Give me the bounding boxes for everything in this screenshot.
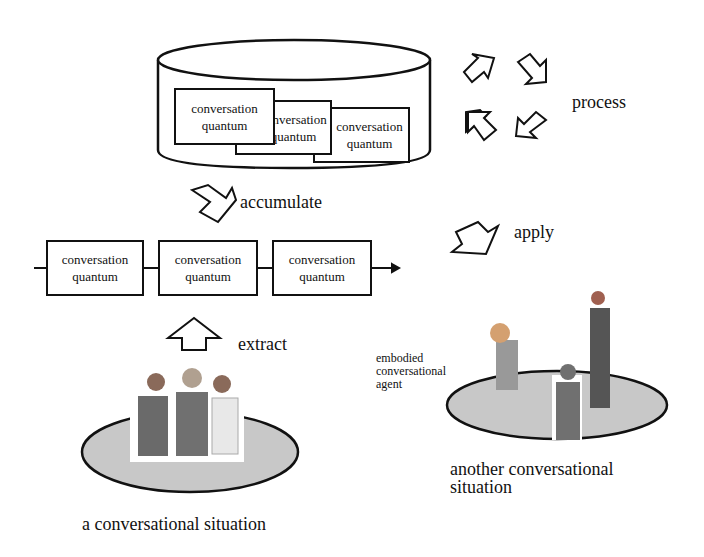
process-arrows (464, 54, 546, 140)
left-situation-caption: a conversational situation (82, 514, 266, 534)
quantum-text: quantum (176, 117, 273, 134)
apply-label: apply (514, 222, 554, 242)
sequence-quantum-1: conversation quantum (46, 240, 144, 296)
extract-arrow-icon (168, 318, 220, 350)
caption-line: another conversational (450, 460, 613, 478)
right-situation-caption: another conversational situation (450, 460, 613, 496)
agent-label: embodied conversational agent (376, 352, 446, 391)
accumulate-arrow-icon (192, 185, 236, 222)
quantum-text: conversation (48, 251, 142, 268)
quantum-text: conversation (274, 251, 370, 268)
agent-label-line: agent (376, 378, 446, 391)
apply-arrow-icon (452, 222, 498, 254)
quantum-text: conversation (160, 251, 256, 268)
quantum-text: quantum (48, 268, 142, 285)
extract-label: extract (238, 334, 287, 354)
quantum-text: quantum (160, 268, 256, 285)
quantum-text: quantum (331, 135, 408, 152)
quantum-text: conversation (176, 100, 273, 117)
caption-line: situation (450, 478, 613, 496)
accumulate-label: accumulate (240, 192, 322, 212)
db-quantum-1: conversation quantum (174, 88, 275, 145)
sequence-quantum-3: conversation quantum (272, 240, 372, 296)
sequence-quantum-2: conversation quantum (158, 240, 258, 296)
process-label: process (572, 92, 626, 112)
quantum-text: quantum (274, 268, 370, 285)
people-shaking-hands-image (130, 366, 244, 462)
quantum-text: conversation (331, 118, 408, 135)
